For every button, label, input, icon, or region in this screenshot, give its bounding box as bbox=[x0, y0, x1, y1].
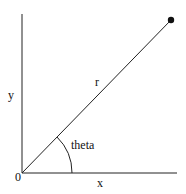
radius-line bbox=[22, 20, 171, 173]
angle-label: theta bbox=[71, 138, 95, 152]
origin-label: 0 bbox=[15, 170, 21, 184]
angle-arc bbox=[57, 137, 72, 173]
point-marker bbox=[168, 17, 174, 23]
y-axis-label: y bbox=[8, 88, 14, 102]
x-axis-label: x bbox=[97, 176, 103, 190]
polar-diagram: y r theta 0 x bbox=[0, 0, 186, 194]
radius-label: r bbox=[95, 75, 99, 89]
